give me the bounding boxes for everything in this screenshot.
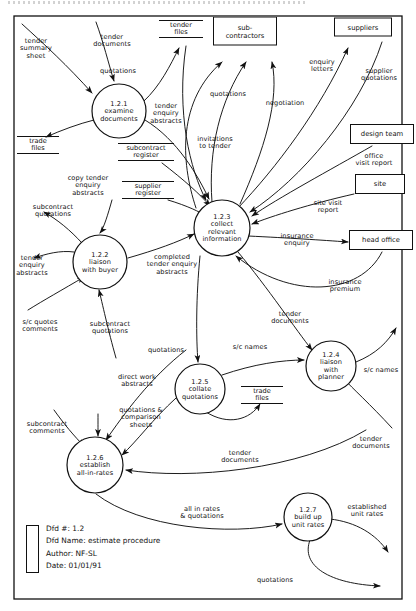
process-label-1-2-3: 1.2.3collectrelevantinformation — [202, 214, 241, 244]
store-label: supplier register — [122, 182, 174, 198]
flow-label: s/c quotes comments — [22, 319, 58, 334]
flow-label: quotations — [210, 91, 246, 98]
process-name-line: unit rates — [292, 522, 325, 529]
legend-author: Author: NF-SL — [26, 548, 222, 560]
process-name-line: information — [202, 236, 241, 243]
flow-label: direct work abstracts — [118, 374, 156, 389]
flow-label: subcontract comments — [27, 421, 67, 436]
store-rule-bottom — [159, 37, 203, 38]
flow-label: subcontract quotations — [33, 204, 73, 219]
store-label: trade files — [241, 387, 283, 403]
flow-label: quotations & comparison sheets — [119, 407, 163, 429]
data-store[interactable]: tender files — [159, 20, 203, 38]
legend-marker — [26, 525, 39, 573]
flow-label: office visit report — [355, 153, 392, 168]
flow-label: quotations — [257, 577, 293, 584]
flow-label: tender documents — [221, 450, 259, 465]
legend-box: Dfd #: 1.2 Dfd Name: estimate procedure … — [26, 523, 222, 573]
external-entity[interactable]: design team — [350, 124, 414, 144]
data-store[interactable]: trade files — [17, 136, 59, 154]
flow-arrows — [22, 22, 396, 586]
external-entity[interactable]: head office — [349, 230, 413, 250]
flow-label: copy tender enquiry abstracts — [68, 175, 109, 197]
process-label-1-2-2: 1.2.2liaisonwith buyer — [82, 252, 118, 274]
flow-label: invitations to tender — [197, 136, 233, 151]
flow-label: quotations — [100, 68, 136, 75]
process-label-1-2-1: 1.2.1examinedocuments — [100, 101, 138, 123]
external-entity[interactable]: site — [355, 174, 405, 194]
flow-label: supplier quotations — [361, 68, 397, 83]
store-rule-bottom — [17, 153, 59, 154]
process-label-1-2-4: 1.2.4liaisonwithplanner — [318, 352, 344, 382]
store-rule-bottom — [122, 198, 174, 199]
flow-label: s/c names — [233, 344, 267, 351]
process-label-1-2-7: 1.2.7build upunit rates — [292, 507, 325, 529]
flow-label: tender enquiry abstracts — [150, 103, 182, 125]
process-name-line: with buyer — [82, 267, 118, 274]
flow-label: s/c names — [364, 367, 398, 374]
external-entity[interactable]: sub- contractors — [213, 17, 277, 46]
flow-label: quotations — [148, 347, 184, 354]
legend-dfd-number: Dfd #: 1.2 — [26, 523, 222, 535]
process-name-line: planner — [318, 374, 344, 381]
process-name-line: all-in-rates — [77, 470, 114, 477]
store-label: trade files — [17, 137, 59, 153]
process-label-1-2-6: 1.2.6establishall-in-rates — [77, 455, 114, 477]
flow-label: negotiation — [266, 100, 305, 107]
flow-label: insurance premium — [328, 279, 361, 294]
flow-label: tender documents — [93, 34, 131, 49]
data-store[interactable]: trade files — [241, 386, 283, 404]
store-rule-bottom — [241, 403, 283, 404]
legend-date: Date: 01/01/91 — [26, 560, 222, 572]
external-entity[interactable]: suppliers — [334, 18, 392, 37]
process-name-line: documents — [100, 116, 138, 123]
flow-label: enquiry letters — [309, 59, 335, 74]
flow-label: tender summary sheet — [20, 38, 52, 60]
store-rule-bottom — [118, 160, 174, 161]
flow-label: tender enquiry abstracts — [16, 255, 48, 277]
flow-label: subcontract quotations — [90, 321, 130, 336]
flow-label: tender documents — [271, 311, 309, 326]
process-label-1-2-5: 1.2.5collatequotations — [182, 379, 218, 401]
data-store[interactable]: supplier register — [122, 181, 174, 199]
flow-label: site visit report — [314, 200, 343, 215]
flow-label: insurance enquiry — [280, 233, 313, 248]
flow-label: all in rates & quotations — [180, 506, 224, 521]
flow-label: tender documents — [352, 436, 390, 451]
store-label: subcontract register — [118, 144, 174, 160]
flow-label: completed tender enquiry abstracts — [147, 254, 197, 276]
legend-dfd-name: Dfd Name: estimate procedure — [26, 535, 222, 547]
process-name-line: quotations — [182, 394, 218, 401]
store-label: tender files — [159, 21, 203, 37]
flow-label: established unit rates — [348, 504, 387, 519]
data-store[interactable]: subcontract register — [118, 143, 174, 161]
